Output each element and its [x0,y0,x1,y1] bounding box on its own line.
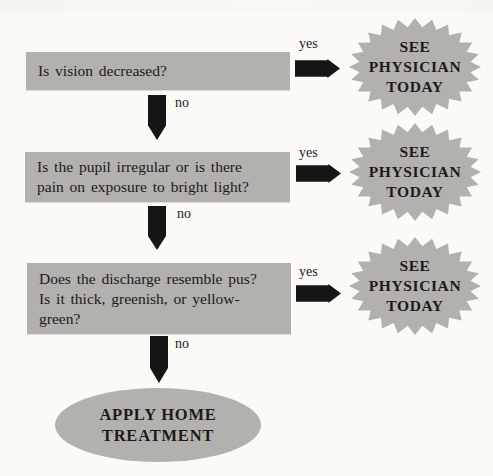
yes-arrow-right-1-icon [295,59,340,78]
home-treatment-ellipse: APPLY HOME TREATMENT [55,388,261,462]
question-text-line: green? [39,309,279,329]
outcome-line: TREATMENT [102,425,214,446]
scan-artifact [0,0,493,12]
outcome-line: TODAY [386,77,443,97]
outcome-line: SEE [399,37,430,57]
question-text-line: Does the discharge resemble pus? [39,269,279,289]
no-label-2: no [177,207,191,221]
question-text-line: pain on exposure to bright light? [37,177,278,197]
outcome-burst-3-label: SEE PHYSICIAN TODAY [345,234,485,338]
outcome-line: TODAY [386,182,443,202]
no-arrow-down-2-icon [148,206,166,250]
question-text-line: Is it thick, greenish, or yellow- [39,289,279,309]
outcome-burst-1: SEE PHYSICIAN TODAY [345,15,485,119]
yes-label-2: yes [299,146,318,160]
no-label-1: no [175,96,189,110]
outcome-line: PHYSICIAN [369,162,461,182]
yes-arrow-right-3-icon [296,284,341,303]
outcome-burst-2: SEE PHYSICIAN TODAY [345,120,485,224]
question-box-pupil: Is the pupil irregular or is there pain … [25,152,290,202]
outcome-line: SEE [399,142,430,162]
no-label-3: no [175,337,189,351]
question-text-line: Is vision decreased? [38,61,278,81]
yes-label-3: yes [299,265,318,279]
outcome-line: PHYSICIAN [369,276,461,296]
no-arrow-down-1-icon [148,95,166,140]
yes-label-1: yes [299,37,318,51]
no-arrow-down-3-icon [150,336,168,383]
flowchart-canvas: Is vision decreased? yes SEE PHYSICIAN T… [0,0,493,476]
question-box-vision: Is vision decreased? [26,52,290,90]
outcome-line: PHYSICIAN [369,57,461,77]
yes-arrow-right-2-icon [296,164,341,183]
outcome-burst-2-label: SEE PHYSICIAN TODAY [345,120,485,224]
outcome-line: APPLY HOME [99,404,216,425]
outcome-line: TODAY [386,296,443,316]
outcome-burst-1-label: SEE PHYSICIAN TODAY [345,15,485,119]
question-box-discharge: Does the discharge resemble pus? Is it t… [27,263,291,334]
outcome-burst-3: SEE PHYSICIAN TODAY [345,234,485,338]
outcome-line: SEE [399,256,430,276]
question-text-line: Is the pupil irregular or is there [37,157,278,177]
